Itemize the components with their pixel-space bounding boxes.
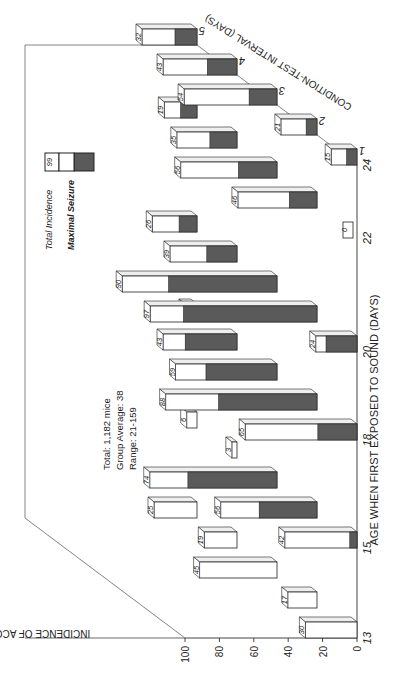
x-tick-label: 13 [361, 631, 373, 644]
bar: 21 [273, 114, 317, 135]
bar: 24 [308, 331, 357, 352]
bar-value-label: 65 [237, 427, 246, 436]
legend-total-label: Total Incidence [44, 190, 54, 250]
bar-value-label: 24 [308, 340, 317, 349]
y-tick-label: 60 [249, 646, 260, 658]
legend: Total Incidence Maximal Seizure [44, 180, 76, 250]
bar-value-label: 54 [176, 93, 185, 101]
z-tick-label: 4 [239, 55, 245, 67]
bar: 56 [173, 157, 277, 178]
bar-value-label: 17 [280, 595, 289, 604]
x-axis-label: AGE WHEN FIRST EXPOSED TO SOUND (DAYS) [368, 294, 380, 545]
y-tick-label: 0 [352, 646, 363, 652]
bar: 3 [224, 437, 237, 458]
bar: 30 [297, 617, 357, 638]
annotation-line1: Total: 1,182 mice [101, 398, 112, 470]
bar-value-label: 42 [277, 535, 286, 544]
bar: 43 [155, 329, 237, 350]
bar-value-label: 21 [273, 123, 282, 132]
bar: 54 [176, 84, 277, 105]
plot-area: 0204060801001315182022241234525672619321… [25, 24, 373, 663]
bar: 56 [213, 497, 317, 518]
bar-value-label: 25 [146, 505, 155, 515]
bar-value-label: 56 [173, 165, 182, 174]
annotation-box: Total: 1,182 mice Group Average: 38 Rang… [101, 390, 138, 470]
bar: 15 [323, 144, 357, 165]
bar: 65 [237, 419, 357, 440]
bar-value-label: 35 [169, 135, 178, 144]
bar-value-label: 19 [156, 105, 165, 114]
bar-value-label: 15 [323, 152, 332, 161]
bar-value-label: 32 [134, 32, 143, 41]
bar-value-label: 19 [196, 535, 205, 544]
bar-value-label: 59 [168, 367, 177, 376]
bar-value-label: 46 [230, 195, 239, 204]
bar-value-label: 88 [158, 397, 167, 406]
bar: 88 [158, 389, 317, 410]
z-tick-label: 1 [359, 145, 365, 157]
svg-text:99: 99 [45, 157, 54, 166]
z-tick-label: 5 [198, 25, 205, 37]
bar-value-label: 74 [142, 476, 151, 484]
bar-value-label: 45 [192, 565, 201, 574]
bar: 97 [142, 301, 317, 322]
z-tick-label: 2 [319, 115, 326, 127]
bar-value-label: 97 [142, 309, 151, 318]
bar-value-label: 30 [297, 625, 306, 634]
y-tick-label: 20 [318, 646, 329, 658]
y-tick-label: 80 [214, 646, 225, 658]
bar: 0 [340, 222, 353, 238]
legend-maximal-label: Maximal Seizure [66, 180, 76, 250]
bar-value-label: 39 [162, 249, 171, 258]
x-tick-label: 24 [361, 159, 373, 172]
bar: 26 [144, 211, 197, 232]
bar-value-label: 90 [114, 279, 123, 288]
y-tick-label: 100 [180, 646, 191, 663]
bar: 32 [134, 24, 197, 45]
chart: 0204060801001315182022241234525672619321… [0, 0, 399, 698]
x-tick-label: 22 [361, 232, 373, 245]
bar: 46 [230, 187, 317, 208]
bar: 17 [280, 587, 317, 608]
bar: 59 [168, 359, 277, 380]
bar: 42 [277, 527, 357, 548]
y-tick-label: 40 [283, 646, 294, 658]
z-tick-label: 3 [278, 85, 285, 97]
bar-value-label: 43 [155, 62, 164, 71]
bar: 90 [114, 271, 277, 292]
annotation-line3: Range: 21-159 [127, 407, 138, 470]
annotation-line2: Group Average: 38 [114, 390, 125, 470]
bar: 74 [142, 467, 277, 488]
legend-swatch: 99 [45, 153, 94, 171]
bar: 43 [155, 54, 237, 75]
bar: 45 [192, 557, 277, 578]
bar: 39 [162, 241, 237, 262]
y-axis-label: INCIDENCE OF ACCR (%) [0, 628, 90, 639]
bar-value-label: 43 [155, 337, 164, 346]
bar-value-label: 26 [144, 219, 153, 229]
bar: 19 [196, 527, 237, 548]
bar-value-label: 56 [213, 505, 222, 514]
bar: 25 [146, 497, 197, 518]
bar: 35 [169, 127, 237, 148]
